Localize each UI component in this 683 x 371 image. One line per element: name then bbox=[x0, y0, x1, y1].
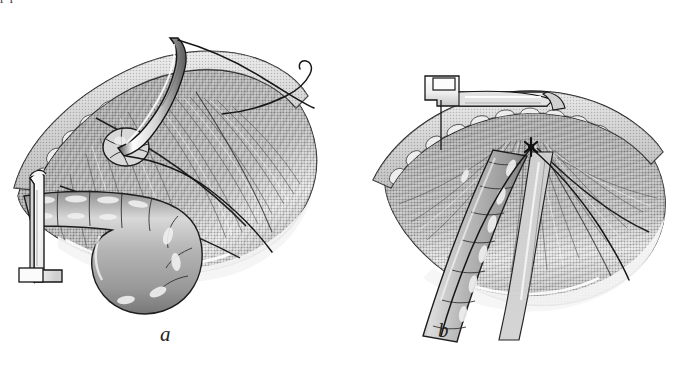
panel-b bbox=[341, 0, 683, 371]
panel-a bbox=[0, 0, 341, 371]
panel-label-a: a bbox=[160, 322, 171, 347]
surgical-figure: p p bbox=[0, 0, 683, 371]
panel-label-b: b bbox=[438, 318, 449, 343]
tubular-cord-structure-a bbox=[24, 190, 202, 314]
